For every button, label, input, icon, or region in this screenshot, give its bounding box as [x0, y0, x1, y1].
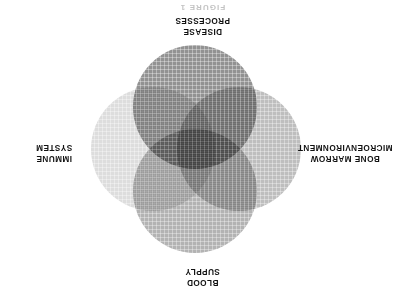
- venn-circle-bone-marrow-microenvironment[interactable]: [177, 87, 301, 211]
- venn-label-bone-marrow-microenvironment: BONE MARROW MICROENVIRONMENT: [287, 142, 403, 163]
- venn-figure: BLOOD SUPPLY IMMUNE SYSTEM DISEASE PROCE…: [0, 0, 405, 301]
- venn-label-immune-system: IMMUNE SYSTEM: [6, 142, 102, 163]
- venn-label-blood-supply: BLOOD SUPPLY: [0, 266, 405, 287]
- venn-label-disease-processes: DISEASE PROCESSES: [0, 15, 405, 36]
- figure-title-partial: FIGURE 1: [0, 3, 405, 12]
